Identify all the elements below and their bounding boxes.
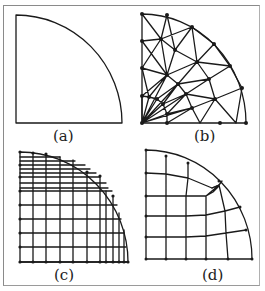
panel-a-label: (a) <box>53 129 74 144</box>
panel-d-label: (d) <box>202 268 223 283</box>
panel-b-label: (b) <box>194 129 215 144</box>
panel-a-geometry <box>16 15 122 123</box>
panel-d-block-mesh <box>146 150 252 259</box>
panel-c-label: (c) <box>54 268 74 283</box>
mesh-figure <box>0 0 265 291</box>
panel-c-cartesian-grid <box>20 152 128 262</box>
panel-b-triangular-mesh <box>142 14 246 123</box>
